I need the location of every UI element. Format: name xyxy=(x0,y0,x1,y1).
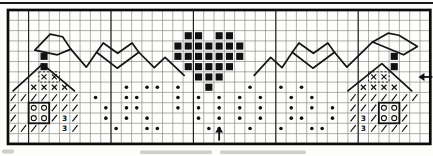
svg-text:3: 3 xyxy=(62,124,67,133)
svg-text:3: 3 xyxy=(361,114,366,123)
cross-stitch-chart: 3333 xyxy=(0,0,433,156)
pattern-page: 3333 xyxy=(0,0,433,156)
svg-text:3: 3 xyxy=(62,114,67,123)
svg-text:3: 3 xyxy=(361,124,366,133)
